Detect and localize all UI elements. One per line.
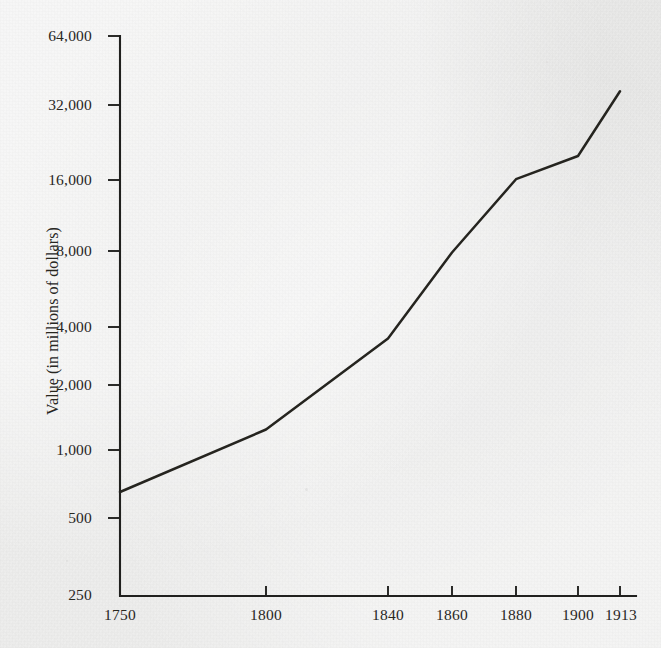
scanned-figure-page: Value (in millions of dollars) 64,000 32… <box>0 0 661 648</box>
axis-lines <box>120 36 636 596</box>
y-axis-ticks <box>108 36 120 518</box>
data-series-line <box>120 91 620 492</box>
x-axis-ticks <box>266 586 620 596</box>
plot-area <box>0 0 661 648</box>
line-chart-figure: Value (in millions of dollars) 64,000 32… <box>0 0 661 648</box>
